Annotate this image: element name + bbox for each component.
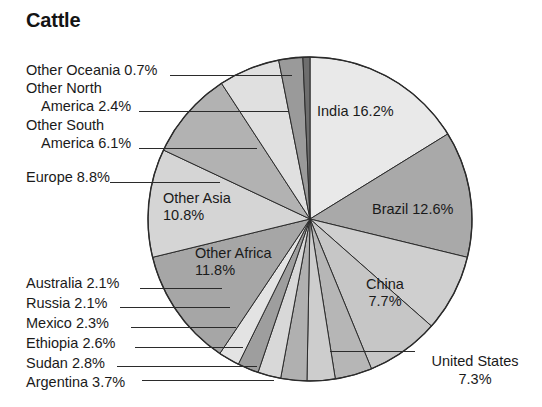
leader-line-other-south-america [139, 148, 257, 149]
label-other-africa-line2: 11.8% [195, 262, 235, 279]
leader-line-ethiopia [135, 347, 243, 348]
label-australia: Australia 2.1% [26, 275, 120, 292]
label-china-line1: China [355, 276, 415, 293]
label-other-africa-line1: Other Africa [195, 245, 272, 262]
chart-page: Cattle Other Oceania 0.7% Other North Am… [0, 0, 542, 407]
label-mexico: Mexico 2.3% [26, 315, 109, 332]
label-brazil: Brazil 12.6% [372, 201, 453, 218]
label-argentina: Argentina 3.7% [26, 374, 125, 391]
leader-line-mexico [131, 327, 236, 328]
label-united-states-line2: 7.3% [420, 371, 530, 388]
label-united-states-line1: United States [420, 353, 530, 370]
leader-line-sudan [117, 366, 257, 367]
leader-line-russia [120, 307, 230, 308]
label-russia: Russia 2.1% [26, 295, 107, 312]
label-other-north-america-line2: America 2.4% [41, 98, 131, 115]
label-china-line2: 7.7% [355, 293, 415, 310]
label-other-north-america-line1: Other North [26, 80, 102, 97]
label-other-asia-line1: Other Asia [163, 190, 231, 207]
leader-line-other-north-america [139, 111, 289, 112]
label-sudan: Sudan 2.8% [26, 355, 105, 372]
leader-line-europe [110, 182, 220, 183]
label-other-asia-line2: 10.8% [163, 207, 204, 224]
leader-line-argentina [142, 380, 274, 381]
label-other-south-america-line2: America 6.1% [41, 135, 131, 152]
label-india: India 16.2% [317, 103, 394, 120]
label-ethiopia: Ethiopia 2.6% [26, 335, 115, 352]
leader-line-united-states [330, 351, 415, 352]
label-other-south-america-line1: Other South [26, 117, 104, 134]
leader-line-australia [140, 288, 222, 289]
label-europe: Europe 8.8% [26, 169, 110, 186]
leader-line-other-oceania [170, 75, 292, 76]
label-other-oceania: Other Oceania 0.7% [26, 62, 157, 79]
